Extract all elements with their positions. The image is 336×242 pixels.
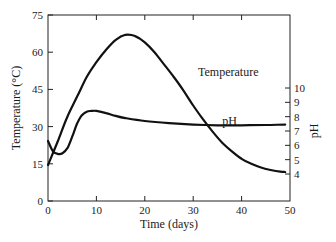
y2-tick-label: 9	[294, 96, 300, 108]
y-axis-left-title: Temperature (°C)	[9, 66, 23, 150]
temperature-line	[48, 35, 285, 172]
y-axis-right-title: pH	[307, 123, 321, 138]
y-tick-label: 60	[32, 46, 44, 58]
chart: 01020304050 01530456075 45678910 Tempera…	[0, 0, 336, 242]
x-tick-label: 30	[188, 204, 200, 216]
y-tick-label: 75	[32, 9, 44, 21]
x-tick-label: 40	[236, 204, 248, 216]
y2-tick-label: 8	[294, 111, 300, 123]
x-tick-label: 50	[285, 204, 297, 216]
x-axis-title: Time (days)	[140, 217, 198, 231]
y-tick-label: 45	[32, 83, 44, 95]
temperature-series-label: Temperature	[198, 65, 258, 79]
y-tick-label: 30	[32, 121, 44, 133]
y-axis-right-ticks: 45678910	[285, 82, 306, 180]
ph-line	[48, 111, 285, 154]
ph-series-label: pH	[222, 114, 237, 128]
plot-frame	[48, 15, 290, 201]
x-tick-label: 10	[91, 204, 103, 216]
y2-tick-label: 6	[294, 139, 300, 151]
y2-tick-label: 5	[294, 154, 300, 166]
y-axis-left-ticks: 01530456075	[32, 9, 53, 207]
x-tick-label: 20	[139, 204, 151, 216]
y2-tick-label: 4	[294, 168, 300, 180]
x-tick-label: 0	[45, 204, 51, 216]
y2-tick-label: 7	[294, 125, 300, 137]
y-tick-label: 15	[32, 158, 44, 170]
y-tick-label: 0	[38, 195, 44, 207]
y2-tick-label: 10	[294, 82, 306, 94]
